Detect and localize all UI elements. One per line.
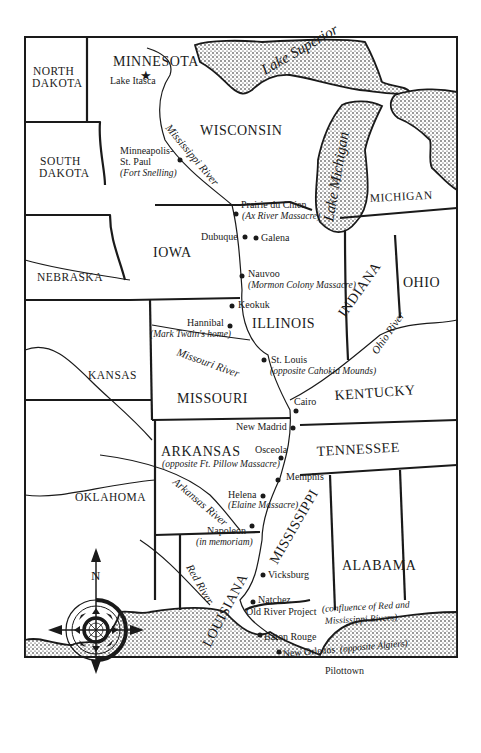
state-south-dakota-1: SOUTH [40,155,81,167]
place-new-madrid: New Madrid [236,421,287,432]
place-hannibal: Hannibal [187,317,224,328]
place-st-paul: St. Paul [120,156,151,167]
state-ohio: OHIO [403,275,440,290]
place-napoleon: Napoleon [207,525,246,536]
place-galena: Galena [261,232,290,243]
place-keokuk: Keokuk [238,299,270,310]
place-cairo: Cairo [294,396,316,407]
place-vicksburg: Vicksburg [268,569,309,580]
place-minneapolis: Minneapolis- [120,145,173,156]
state-minnesota: MINNESOTA [113,54,199,69]
place-note-fort-snelling: (Fort Snelling) [120,168,177,179]
place-note-cahokia: (opposite Cahokia Mounds) [270,366,376,377]
place-st-louis: St. Louis [271,354,307,365]
place-note-elaine: (Elaine Massacre) [228,500,298,511]
state-kansas: KANSAS [88,369,137,381]
state-iowa: IOWA [153,245,192,260]
state-south-dakota-2: DAKOTA [39,167,90,179]
place-pilottown: Pilottown [325,665,364,676]
place-osceola: Osceola [255,444,288,455]
state-oklahoma: OKLAHOMA [75,491,146,503]
place-note-in-memoriam: (in memoriam) [196,537,253,548]
place-nauvoo: Nauvoo [248,268,280,279]
state-wisconsin: WISCONSIN [200,123,282,138]
place-dubuque: Dubuque [201,231,238,242]
place-note-ft-pillow: (opposite Ft. Pillow Massacre) [162,459,280,470]
place-old-river-project: Old River Project [246,606,317,617]
place-natchez: Natchez [258,594,291,605]
state-north-dakota-1: NORTH [33,65,74,77]
state-north-dakota-2: DAKOTA [32,77,83,89]
compass-north-label: N [91,568,101,583]
state-nebraska: NEBRASKA [37,271,103,283]
state-arkansas: ARKANSAS [161,444,240,459]
place-prairie-du-chien: Prairie du Chien [241,199,307,210]
place-note-mormon: (Mormon Colony Massacre) [248,280,356,291]
state-illinois: ILLINOIS [252,316,315,331]
state-alabama: ALABAMA [342,558,417,573]
place-helena: Helena [228,489,257,500]
place-lake-itasca: Lake Itasca [110,75,156,86]
place-note-mark-twain: (Mark Twain's home) [150,329,231,340]
place-memphis: Memphis [286,471,324,482]
mississippi-river-map: ★ MINNESOTA NORTH DAKOTA SOUTH DAKOTA WI… [0,0,481,753]
place-baton-rouge: Baton Rouge [264,631,317,642]
state-missouri: MISSOURI [177,391,248,406]
place-note-ax-river: (Ax River Massacre) [242,211,320,222]
